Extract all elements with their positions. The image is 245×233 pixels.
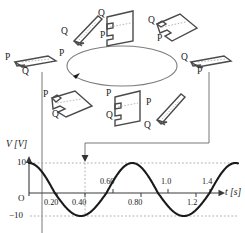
- voltage-curve: [29, 163, 238, 216]
- coil-mid-left-bottom-label: Q: [22, 67, 29, 77]
- coil-top-left-top-label: Q: [61, 27, 68, 37]
- coil-top-right-top-label: Q: [148, 16, 155, 26]
- coil-bottom-right-shape: [157, 94, 185, 125]
- coil-mid-left-top-label: P: [5, 53, 10, 63]
- xtick-label-0.20: 0.20: [44, 199, 58, 207]
- coil-mid-right-top-label: Q: [181, 53, 188, 63]
- coil-bottom-center-top-label: P: [106, 89, 111, 99]
- y-axis-arrowhead-icon: [26, 156, 32, 163]
- y-top-label: 10: [17, 158, 26, 167]
- rotation-ellipse: [67, 46, 177, 86]
- coil-bottom-left-top-label: P: [43, 90, 48, 100]
- origin-label: O: [18, 194, 25, 203]
- x-axis-title: t [s]: [225, 188, 241, 198]
- coil-bottom-center-bottom-label: Q: [106, 111, 113, 121]
- y-bottom-label: −10: [9, 211, 23, 220]
- xtick-label-0.80: 0.80: [128, 199, 142, 207]
- coil-mid-right-bottom-label: P: [197, 67, 202, 77]
- coil-top-center-top-label: Q: [98, 9, 105, 19]
- coil-top-left-bottom-label: P: [59, 49, 64, 59]
- connector-arrowhead-icon: [82, 155, 89, 162]
- y-axis-title: V [V]: [6, 140, 27, 150]
- coil-bottom-right-bottom-label: Q: [144, 121, 151, 131]
- chart-axes: [26, 156, 225, 196]
- rotating-coil-voltage-figure: Q P Q P Q P P Q Q P P Q P Q P Q V [V] t …: [0, 0, 245, 233]
- xtick-label-1.4: 1.4: [202, 178, 212, 186]
- xtick-label-1.2: 1.2: [187, 199, 197, 207]
- figure-canvas: [0, 0, 245, 233]
- xtick-label-0.40: 0.40: [72, 199, 86, 207]
- chart-reference-lines: [30, 163, 238, 216]
- xtick-label-1.0: 1.0: [161, 178, 171, 186]
- coil-top-left-shape: [74, 16, 102, 46]
- coil-top-right-shape: [157, 14, 197, 41]
- xtick-label-0.60: 0.60: [100, 178, 114, 186]
- coil-bottom-center-shape: [115, 91, 140, 126]
- coil-top-right-bottom-label: P: [157, 34, 162, 44]
- coil-bottom-right-top-label: P: [146, 98, 151, 108]
- coil-top-center-bottom-label: P: [100, 31, 105, 41]
- coil-top-center-shape: [107, 11, 133, 46]
- rotation-ellipse-group: [67, 46, 177, 86]
- coil-bottom-left-bottom-label: Q: [52, 110, 59, 120]
